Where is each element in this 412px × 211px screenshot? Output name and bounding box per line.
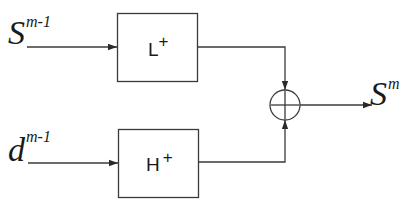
lowpass-label-base: L (148, 39, 159, 60)
summing-junction (270, 90, 300, 120)
input-d-superscript: m-1 (26, 128, 51, 145)
edge-highpass-to-adder (198, 120, 285, 162)
lowpass-synthesis-block: L+ (118, 14, 198, 82)
block-diagram: Sm-1 L+ dm-1 H+ Sm (0, 0, 412, 211)
highpass-synthesis-block: H+ (119, 130, 199, 198)
lowpass-label-superscript: + (159, 32, 169, 51)
input-s-superscript: m-1 (26, 13, 51, 30)
highpass-label-base: H (146, 154, 160, 175)
input-d-label: dm-1 (8, 128, 51, 168)
edge-lowpass-to-adder (197, 47, 285, 90)
highpass-label-superscript: + (163, 148, 173, 167)
output-s-label: Sm (370, 75, 400, 112)
input-s-base: S (8, 14, 25, 51)
input-d-base: d (8, 131, 26, 168)
input-s-label: Sm-1 (8, 13, 51, 51)
output-s-superscript: m (388, 75, 400, 92)
output-s-base: S (370, 75, 387, 112)
